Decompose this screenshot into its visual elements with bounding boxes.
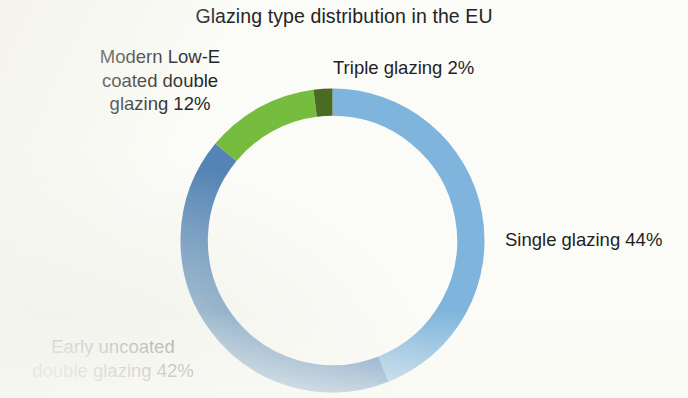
chart-title: Glazing type distribution in the EU [0, 5, 688, 28]
donut-chart-svg [180, 88, 485, 393]
slice-label-early-uncoated: Early uncoated double glazing 42% [2, 335, 224, 382]
donut-slice-group [194, 102, 471, 379]
slice-label-modern-low-e: Modern Low-E coated double glazing 12% [62, 45, 258, 116]
donut-slice-single-glazing [333, 102, 471, 369]
slice-label-single-glazing: Single glazing 44% [505, 228, 688, 252]
slice-label-triple-glazing: Triple glazing 2% [333, 56, 541, 80]
chart-page: Glazing type distribution in the EU Mode… [0, 0, 688, 398]
donut-chart [180, 88, 485, 393]
donut-slice-triple-glazing [315, 102, 332, 103]
